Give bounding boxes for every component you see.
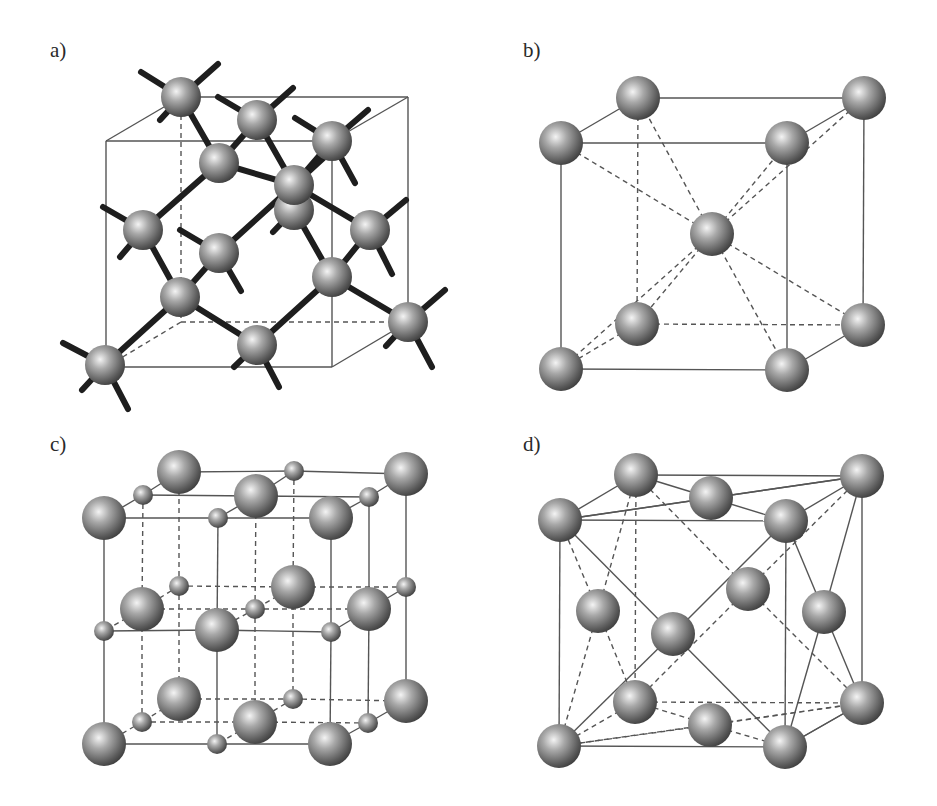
atom [651, 612, 695, 656]
atom [537, 724, 581, 768]
cube-edge [559, 746, 785, 747]
face-diagonal-hidden [748, 476, 862, 589]
hidden-cube-edge [637, 98, 638, 324]
large-ion [157, 677, 201, 721]
crystal-structures-figure: a) b) c) d) [0, 0, 937, 806]
atom [85, 345, 125, 385]
small-ion [208, 508, 228, 528]
atom [538, 498, 582, 542]
atom [765, 121, 809, 165]
body-diagonal [638, 98, 712, 234]
atom [160, 277, 200, 317]
atom [237, 100, 277, 140]
body-diagonal [712, 98, 864, 234]
small-ion [94, 621, 114, 641]
large-ion [308, 722, 352, 766]
atom [613, 680, 657, 724]
atom [388, 302, 428, 342]
small-ion [245, 599, 265, 619]
atom [840, 681, 884, 725]
small-ion [321, 622, 341, 642]
small-ion [359, 487, 379, 507]
atom [312, 121, 352, 161]
atom [726, 567, 770, 611]
large-ion [347, 587, 391, 631]
small-ion [358, 713, 378, 733]
cube-edge [559, 520, 560, 746]
atom [312, 257, 352, 297]
hidden-cube-edge [637, 324, 863, 325]
cube-edge [561, 369, 787, 370]
cube-edge [636, 475, 862, 476]
atom [690, 212, 734, 256]
atom [840, 454, 884, 498]
atom [616, 76, 660, 120]
large-ion [271, 565, 315, 609]
large-ion [234, 474, 278, 518]
atom [123, 210, 163, 250]
large-ion [384, 452, 428, 496]
diamond-cubic-panel [63, 64, 445, 409]
small-ion [396, 577, 416, 597]
large-ion [195, 608, 239, 652]
atom [539, 347, 583, 391]
hidden-cube-edge [635, 702, 862, 703]
small-ion [284, 461, 304, 481]
atom [763, 725, 807, 769]
small-ion [207, 734, 227, 754]
rock-salt-panel [82, 450, 428, 766]
atom [688, 703, 732, 747]
small-ion [169, 576, 189, 596]
atom [764, 499, 808, 543]
atom [689, 476, 733, 520]
atom [841, 303, 885, 347]
face-diagonal [559, 634, 673, 746]
small-ion [133, 485, 153, 505]
lattice-canvas [0, 0, 937, 806]
atom [842, 76, 886, 120]
large-ion [82, 722, 126, 766]
large-ion [309, 496, 353, 540]
bcc-panel [539, 76, 886, 392]
atom [199, 233, 239, 273]
small-ion [283, 689, 303, 709]
atom [615, 302, 659, 346]
atom [161, 77, 201, 117]
body-diagonal [561, 143, 712, 234]
large-ion [157, 450, 201, 494]
fcc-panel [537, 453, 884, 769]
cube-edge [560, 520, 786, 521]
small-ion [132, 712, 152, 732]
atom [350, 210, 390, 250]
body-diagonal [712, 234, 787, 370]
atom [576, 589, 620, 633]
cube-edge [863, 98, 864, 325]
body-diagonal [561, 234, 712, 369]
large-ion [82, 496, 126, 540]
atom [237, 325, 277, 365]
atom [802, 590, 846, 634]
atom [614, 453, 658, 497]
atom [274, 165, 314, 205]
atom [539, 121, 583, 165]
atom [765, 348, 809, 392]
atom [199, 143, 239, 183]
large-ion [384, 679, 428, 723]
large-ion [120, 587, 164, 631]
large-ion [233, 700, 277, 744]
